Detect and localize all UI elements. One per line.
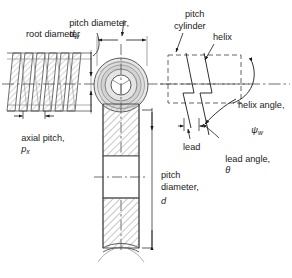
label-pitch-diameter-d-symbol: d: [161, 196, 166, 208]
helix-zigzag: [183, 44, 214, 135]
label-helix: helix: [213, 32, 232, 44]
label-pitch-diameter-d-line1: pitch: [161, 170, 180, 182]
label-lead-angle: lead angle, θ: [215, 142, 270, 188]
leader-lead-angle: [203, 124, 219, 138]
label-helix-angle: helix angle,: [238, 100, 284, 112]
diagram-canvas: pitch diameter, dw root diameter pitch c…: [0, 0, 292, 278]
label-pitch-cylinder-line2: cylinder: [174, 21, 206, 33]
label-axial-pitch: axial pitch, px: [11, 121, 65, 167]
label-pitch-diameter-d-line2: diameter,: [161, 182, 199, 194]
unwrapped-pitch-cylinder: [160, 33, 252, 103]
dim-pitch-diameter-d: [142, 108, 152, 250]
gear-shaft: [94, 104, 148, 262]
dim-axial-pitch: [14, 111, 54, 119]
label-lead: lead: [183, 142, 200, 154]
label-pitch-cylinder-line1: pitch: [185, 9, 204, 21]
label-root-diameter: root diameter: [26, 29, 80, 41]
dim-lead: [178, 118, 205, 139]
